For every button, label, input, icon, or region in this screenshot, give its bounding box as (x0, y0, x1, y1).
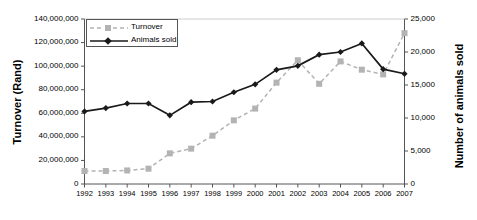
y-axis-left-tick-label: 0 (0, 179, 79, 188)
y-axis-right-tick-label: 15,000 (411, 80, 435, 89)
y-axis-right-tick-label: 25,000 (411, 14, 435, 23)
legend-item-animals-sold: Animals sold (87, 34, 177, 48)
legend-label-animals-sold: Animals sold (131, 35, 176, 44)
legend-swatch-turnover-icon (87, 21, 131, 35)
x-axis-tick-label: 2007 (392, 189, 418, 198)
chart-container: Turnover (Rand) Number of animals sold 0… (0, 0, 477, 220)
y-axis-left-tick-label: 80,000,000 (0, 84, 79, 93)
y-axis-right-tick-label: 5,000 (411, 146, 431, 155)
series-animals-sold-line (81, 40, 407, 118)
y-axis-right-tick-label: 10,000 (411, 113, 435, 122)
legend-label-turnover: Turnover (131, 22, 163, 31)
series-turnover-line (82, 30, 408, 174)
chart-legend: Turnover Animals sold (86, 19, 178, 47)
y-axis-right-tick-label: 20,000 (411, 47, 435, 56)
y-axis-left-tick-label: 20,000,000 (0, 155, 79, 164)
legend-swatch-animals-sold-icon (87, 34, 131, 48)
y-axis-left-tick-label: 60,000,000 (0, 108, 79, 117)
legend-item-turnover: Turnover (87, 21, 177, 35)
y-axis-left-tick-label: 100,000,000 (0, 61, 79, 70)
y-axis-left-tick-label: 40,000,000 (0, 131, 79, 140)
y-axis-left-tick-label: 120,000,000 (0, 37, 79, 46)
y-axis-left-tick-label: 140,000,000 (0, 14, 79, 23)
y-axis-right-tick-label: 0 (411, 179, 415, 188)
